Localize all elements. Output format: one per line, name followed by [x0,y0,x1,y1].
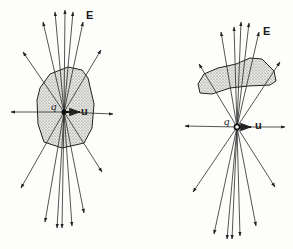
field-label-right: E [263,25,270,37]
field-lines-right [185,22,285,239]
left-panel: q u E [11,9,113,228]
velocity-label-right: u [255,119,262,131]
charged-body-right [198,58,276,94]
field-label-left: E [86,9,93,21]
right-panel: q u E [185,22,285,239]
charge-right [234,124,239,129]
charge-label-right: q [224,115,230,127]
charge-label-left: q [51,100,57,112]
charge-left [61,109,66,114]
velocity-label-left: u [81,105,88,117]
field-diagram: q u E q u E [0,0,293,249]
